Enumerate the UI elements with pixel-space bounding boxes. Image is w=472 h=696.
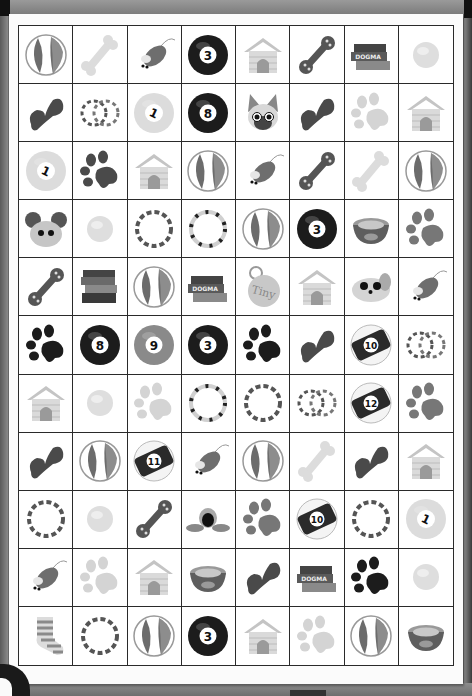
tile-r4-c1[interactable]	[19, 200, 73, 258]
tile-r3-c2[interactable]	[73, 142, 127, 200]
tile-r5-c3[interactable]	[128, 258, 182, 316]
tile-r4-c4[interactable]	[182, 200, 236, 258]
beach-ball-icon	[77, 438, 123, 484]
tile-r2-c1[interactable]	[19, 84, 73, 142]
tile-r8-c2[interactable]	[73, 433, 127, 491]
tile-r11-c5[interactable]	[236, 607, 290, 665]
tile-r6-c5[interactable]	[236, 316, 290, 374]
tile-r3-c5[interactable]	[236, 142, 290, 200]
books-stack-icon	[77, 264, 123, 310]
doghouse-icon	[403, 438, 449, 484]
tile-r9-c3[interactable]	[128, 491, 182, 549]
tile-r8-c1[interactable]	[19, 433, 73, 491]
tile-r2-c2[interactable]	[73, 84, 127, 142]
tile-r9-c4[interactable]	[182, 491, 236, 549]
tile-r11-c8[interactable]	[399, 607, 453, 665]
tile-r7-c7[interactable]: 12	[345, 375, 399, 433]
tile-r10-c8[interactable]	[399, 549, 453, 607]
tile-r1-c1[interactable]	[19, 26, 73, 84]
tile-r3-c8[interactable]	[399, 142, 453, 200]
svg-text:12: 12	[365, 399, 378, 409]
tile-r7-c8[interactable]	[399, 375, 453, 433]
ring-striped-icon	[185, 206, 231, 252]
tile-r6-c3[interactable]: 9	[128, 316, 182, 374]
tile-r7-c4[interactable]	[182, 375, 236, 433]
tile-r6-c8[interactable]	[399, 316, 453, 374]
tile-r10-c7[interactable]	[345, 549, 399, 607]
tile-r2-c6[interactable]	[290, 84, 344, 142]
tile-r9-c7[interactable]	[345, 491, 399, 549]
tile-r3-c6[interactable]	[290, 142, 344, 200]
tile-r9-c1[interactable]	[19, 491, 73, 549]
tile-r5-c5[interactable]: Tiny	[236, 258, 290, 316]
tile-r6-c2[interactable]: 8	[73, 316, 127, 374]
tile-r3-c4[interactable]	[182, 142, 236, 200]
tile-r4-c8[interactable]	[399, 200, 453, 258]
tile-r5-c7[interactable]	[345, 258, 399, 316]
tile-r1-c4[interactable]: 3	[182, 26, 236, 84]
tile-r9-c8[interactable]: 1	[399, 491, 453, 549]
tile-r6-c1[interactable]	[19, 316, 73, 374]
tile-r5-c1[interactable]	[19, 258, 73, 316]
tile-r4-c5[interactable]	[236, 200, 290, 258]
tile-r10-c6[interactable]: DOGMA	[290, 549, 344, 607]
tile-r1-c5[interactable]	[236, 26, 290, 84]
tile-r9-c5[interactable]	[236, 491, 290, 549]
tile-r8-c7[interactable]	[345, 433, 399, 491]
beach-ball-icon	[23, 32, 69, 78]
tile-r6-c7[interactable]: 10	[345, 316, 399, 374]
tile-r1-c3[interactable]	[128, 26, 182, 84]
tile-r5-c4[interactable]: DOGMA	[182, 258, 236, 316]
tile-r10-c5[interactable]	[236, 549, 290, 607]
tile-r7-c3[interactable]	[128, 375, 182, 433]
tile-r4-c3[interactable]	[128, 200, 182, 258]
tile-r1-c7[interactable]: DOGMA	[345, 26, 399, 84]
tile-r10-c2[interactable]	[73, 549, 127, 607]
tile-r9-c6[interactable]: 10	[290, 491, 344, 549]
tile-r8-c5[interactable]	[236, 433, 290, 491]
tile-r5-c6[interactable]	[290, 258, 344, 316]
tile-r3-c3[interactable]	[128, 142, 182, 200]
tile-r4-c7[interactable]	[345, 200, 399, 258]
bone-icon	[294, 438, 340, 484]
tile-r3-c1[interactable]: 1	[19, 142, 73, 200]
tile-r1-c2[interactable]	[73, 26, 127, 84]
tile-r7-c2[interactable]	[73, 375, 127, 433]
tile-r10-c3[interactable]	[128, 549, 182, 607]
tile-r11-c1[interactable]	[19, 607, 73, 665]
tile-r4-c6[interactable]: 3	[290, 200, 344, 258]
tile-r5-c8[interactable]	[399, 258, 453, 316]
tile-r8-c8[interactable]	[399, 433, 453, 491]
toy-mouse-icon	[240, 148, 286, 194]
paw-print-light-icon	[294, 613, 340, 659]
tile-r11-c4[interactable]: 3	[182, 607, 236, 665]
tile-r2-c3[interactable]: 1	[128, 84, 182, 142]
frame-tab	[290, 690, 326, 696]
tile-r11-c6[interactable]	[290, 607, 344, 665]
tile-r10-c4[interactable]	[182, 549, 236, 607]
tile-r5-c2[interactable]	[73, 258, 127, 316]
tile-r9-c2[interactable]	[73, 491, 127, 549]
tile-r1-c8[interactable]	[399, 26, 453, 84]
paw-print-black-icon	[23, 322, 69, 368]
tile-r11-c2[interactable]	[73, 607, 127, 665]
tile-r8-c3[interactable]: 11	[128, 433, 182, 491]
tile-r10-c1[interactable]	[19, 549, 73, 607]
tile-r4-c2[interactable]	[73, 200, 127, 258]
tile-r1-c6[interactable]	[290, 26, 344, 84]
tile-r6-c4[interactable]: 3	[182, 316, 236, 374]
tile-r2-c7[interactable]	[345, 84, 399, 142]
tile-r8-c4[interactable]	[182, 433, 236, 491]
tennis-ball-icon	[77, 496, 123, 542]
tile-r11-c3[interactable]	[128, 607, 182, 665]
tile-r6-c6[interactable]	[290, 316, 344, 374]
tile-r3-c7[interactable]	[345, 142, 399, 200]
tile-r7-c1[interactable]	[19, 375, 73, 433]
tile-r2-c5[interactable]	[236, 84, 290, 142]
tile-r2-c8[interactable]	[399, 84, 453, 142]
tile-r8-c6[interactable]	[290, 433, 344, 491]
tile-r2-c4[interactable]: 8	[182, 84, 236, 142]
tile-r7-c6[interactable]	[290, 375, 344, 433]
tile-r11-c7[interactable]	[345, 607, 399, 665]
tile-r7-c5[interactable]	[236, 375, 290, 433]
